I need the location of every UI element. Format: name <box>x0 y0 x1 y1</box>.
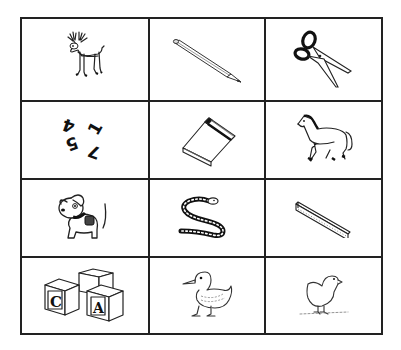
cell-ruler[interactable]: ruler <box>266 180 381 258</box>
cell-snake[interactable]: snake <box>150 180 266 258</box>
cell-chick[interactable]: chick <box>266 258 381 333</box>
cell-horse[interactable]: horse <box>266 102 381 180</box>
block-letter-c: C <box>50 293 62 311</box>
duck-icon <box>179 268 235 324</box>
chick-icon <box>296 270 352 322</box>
horse-icon <box>294 112 354 168</box>
ruler-icon <box>294 198 354 238</box>
block-letter-a: A <box>92 300 105 316</box>
snake-icon <box>177 193 237 243</box>
dog-icon <box>55 190 115 246</box>
numbers-icon: 4 5 1 7 <box>60 114 110 166</box>
cell-pencil[interactable]: pencil <box>150 19 266 102</box>
cell-blocks[interactable]: blocks C A <box>22 258 150 333</box>
pencil-icon <box>171 37 243 83</box>
digit-1: 1 <box>83 118 106 138</box>
cell-deer[interactable]: deer <box>22 19 150 102</box>
digit-7: 7 <box>85 141 103 164</box>
cell-scissors[interactable]: scissors <box>266 19 381 102</box>
cell-numbers[interactable]: numbers 4 5 1 7 <box>22 102 150 180</box>
cell-book[interactable]: book <box>150 102 266 180</box>
cell-duck[interactable]: duck <box>150 258 266 333</box>
picture-grid: deer pencil scissor <box>20 17 383 335</box>
cell-dog[interactable]: dog <box>22 180 150 258</box>
scissors-icon <box>293 29 355 91</box>
blocks-icon: C A <box>43 267 127 325</box>
digit-5: 5 <box>63 133 81 156</box>
deer-icon <box>60 30 110 90</box>
book-icon <box>177 112 237 168</box>
